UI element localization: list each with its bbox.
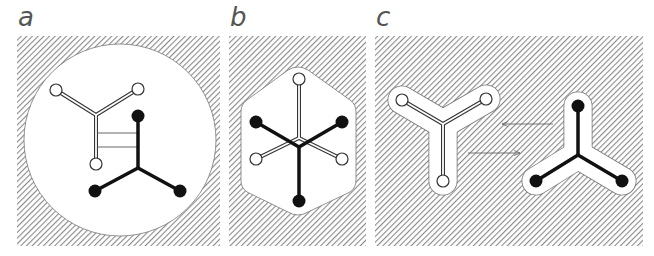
solid-atom (89, 185, 102, 198)
solid-atom (293, 195, 306, 208)
panel-b (229, 36, 366, 246)
hollow-atom (437, 175, 449, 187)
circular-cavity (24, 44, 216, 236)
panel-c (375, 36, 643, 246)
solid-atom (132, 110, 145, 123)
hollow-atom (50, 84, 62, 96)
solid-atom (336, 116, 349, 129)
panel-c-hatched-background (375, 36, 643, 246)
hollow-atom (132, 83, 144, 95)
panel-a (17, 36, 220, 246)
figure-canvas (0, 0, 654, 256)
solid-atom (250, 116, 263, 129)
solid-atom (616, 175, 629, 188)
hollow-atom (336, 153, 348, 165)
solid-atom (530, 175, 543, 188)
hollow-atom (250, 153, 262, 165)
solid-atom (174, 185, 187, 198)
hollow-atom (480, 93, 492, 105)
solid-atom (572, 100, 585, 113)
hollow-atom (396, 94, 408, 106)
hollow-atom (293, 73, 305, 85)
hollow-atom (90, 158, 102, 170)
